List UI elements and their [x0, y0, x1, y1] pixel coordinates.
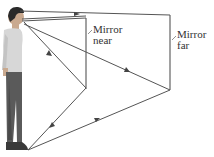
- arrow-icon: [49, 122, 55, 128]
- mirror-far-label: Mirror far: [177, 29, 206, 51]
- person-figure: [2, 7, 28, 150]
- mirror-far-label-line2: far: [177, 40, 206, 51]
- mirror-near-label: Mirror near: [93, 24, 122, 46]
- mirror-near-label-line2: near: [93, 35, 122, 46]
